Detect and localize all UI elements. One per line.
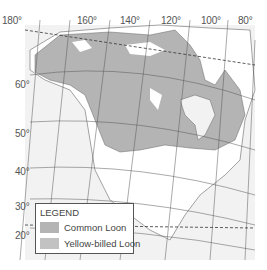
legend: LEGEND Common Loon Yellow-billed Loon (35, 203, 134, 254)
lon-label: 100° (201, 15, 221, 26)
lat-label: 60° (15, 79, 30, 90)
common-loon-swatch (40, 222, 59, 233)
lat-label: 50° (15, 128, 30, 139)
lon-label: 140° (120, 15, 140, 26)
lon-label: 180° (2, 15, 22, 26)
lon-label: 120° (161, 15, 181, 26)
legend-item-label: Yellow-billed Loon (64, 238, 140, 249)
lon-label: 160° (77, 15, 97, 26)
yellow-billed-loon-swatch (40, 238, 59, 249)
lat-label: 20° (15, 230, 30, 241)
lat-label: 30° (15, 201, 30, 212)
loon-range-map: 180° 160° 140° 120° 100° 80° 60° 50° 40°… (0, 0, 267, 270)
lon-label: 80° (238, 15, 253, 26)
legend-title: LEGEND (40, 207, 79, 218)
lat-label: 40° (15, 166, 30, 177)
legend-item-label: Common Loon (64, 222, 126, 233)
